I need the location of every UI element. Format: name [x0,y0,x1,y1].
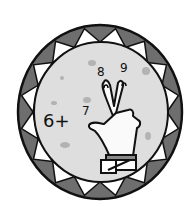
count-nine: 9 [120,61,128,75]
sleeve-cuff [101,155,136,173]
expression-start: 6+ [43,110,70,131]
count-seven: 7 [82,104,90,118]
counting-medallion: 6+ 7 8 9 [0,0,193,208]
count-eight: 8 [97,65,105,79]
